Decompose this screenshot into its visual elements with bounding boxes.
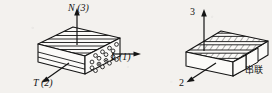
axis-label-t: T (2) (33, 78, 53, 88)
axis-label-n: N (3) (68, 3, 89, 13)
panel-unidirectional-composite (30, 8, 141, 83)
axis-label-3: 3 (190, 7, 195, 17)
axis-label-2: 2 (179, 78, 184, 88)
caption-series-label: 串联 (245, 66, 263, 75)
composite-material-figure: N (3) L (1) T (2) 3 2 串联 (0, 0, 272, 93)
axis-label-l: L (1) (111, 52, 131, 62)
